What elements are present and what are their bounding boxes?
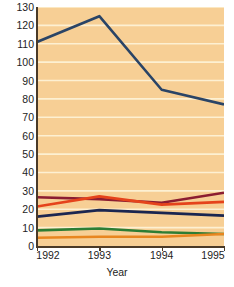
x-tick-mark	[162, 247, 163, 251]
y-tick-label: 70	[22, 112, 34, 122]
y-tick-label: 100	[16, 57, 34, 67]
y-tick-label: 90	[22, 76, 34, 86]
x-tick-mark	[224, 247, 225, 251]
y-tick-label: 110	[17, 39, 34, 49]
series-lines	[37, 16, 224, 238]
series-line-series-1	[37, 16, 224, 104]
plot-svg	[37, 7, 224, 246]
y-tick-label: 20	[22, 204, 34, 214]
x-axis-spine	[36, 246, 225, 248]
gridlines	[37, 7, 224, 228]
x-tick-mark	[37, 247, 38, 251]
y-tick-label: 120	[16, 20, 34, 30]
y-axis-tick-labels: 0102030405060708090100110120130	[0, 0, 36, 287]
x-axis-title: Year	[0, 266, 234, 278]
x-tick-mark	[99, 247, 100, 251]
x-axis-tick-labels: 1992199319941995	[0, 249, 234, 265]
x-tick-label: 1992	[36, 249, 59, 261]
y-axis-spine	[36, 7, 38, 247]
plot-area	[37, 7, 224, 246]
y-tick-label: 60	[22, 131, 34, 141]
y-tick-label: 50	[22, 149, 34, 159]
y-tick-label: 30	[22, 186, 34, 196]
y-tick-label: 80	[22, 94, 34, 104]
y-tick-label: 40	[22, 167, 34, 177]
y-tick-label: 130	[16, 2, 34, 12]
line-chart: Incidence per 100,000 Population 0102030…	[0, 0, 234, 287]
x-tick-label: 1995	[201, 249, 224, 261]
y-tick-label: 10	[22, 223, 34, 233]
series-line-series-6	[37, 234, 224, 238]
series-line-series-5	[37, 229, 224, 235]
series-line-series-4	[37, 210, 224, 216]
